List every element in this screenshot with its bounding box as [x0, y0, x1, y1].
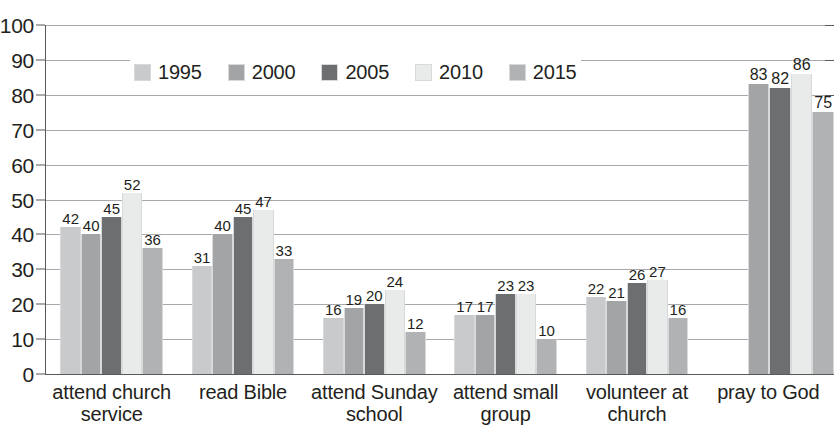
bar-group: 2221262716 — [571, 25, 702, 374]
bar-slot: 42 — [60, 25, 80, 374]
bar-chart: 1009080706050403020100 42404552363140454… — [0, 0, 834, 442]
bar[interactable]: 16 — [323, 318, 343, 374]
legend-item-2000[interactable]: 2000 — [228, 62, 296, 82]
bar[interactable]: 33 — [274, 259, 294, 374]
bar-value-label: 52 — [124, 177, 141, 192]
bar[interactable]: 75 — [812, 112, 834, 374]
bar-slot: 22 — [586, 25, 606, 374]
y-tick-mark — [36, 304, 45, 305]
y-tick-mark — [36, 199, 45, 200]
bar-value-label: 16 — [325, 302, 342, 317]
bar-value-label: 10 — [538, 323, 555, 338]
bar[interactable]: 20 — [364, 304, 384, 374]
y-tick-mark — [36, 234, 45, 235]
bar[interactable]: 10 — [536, 339, 556, 374]
bar-value-label: 42 — [62, 211, 79, 226]
bar[interactable]: 23 — [495, 294, 515, 374]
bar[interactable]: 45 — [101, 217, 121, 374]
bar-value-label: 20 — [366, 288, 383, 303]
bar[interactable]: 26 — [627, 283, 647, 374]
bar-value-label: 17 — [477, 299, 494, 314]
bar[interactable]: 45 — [233, 217, 253, 374]
bar[interactable]: 83 — [748, 84, 770, 374]
bar-value-label: 40 — [214, 218, 231, 233]
bar-slot: 26 — [627, 25, 647, 374]
bar-value-label: 22 — [588, 281, 605, 296]
bar[interactable]: 82 — [769, 88, 791, 374]
bar[interactable]: 12 — [405, 332, 425, 374]
bar-value-label: 12 — [407, 316, 424, 331]
bar-value-label: 47 — [255, 194, 272, 209]
bar[interactable]: 27 — [647, 280, 667, 374]
legend-item-2015[interactable]: 2015 — [509, 62, 577, 82]
bar-value-label: 33 — [276, 243, 293, 258]
legend-swatch-icon — [509, 64, 526, 81]
bar-value-label: 16 — [670, 302, 687, 317]
bar[interactable]: 36 — [142, 248, 162, 374]
y-tick-label: 10 — [11, 329, 34, 350]
x-axis-label: volunteer atchurch — [571, 381, 702, 426]
y-tick-label: 60 — [11, 154, 34, 175]
bar-slot: 82 — [769, 25, 791, 374]
x-axis-label: attend smallgroup — [440, 381, 571, 426]
bar[interactable]: 17 — [475, 315, 495, 374]
bar-value-label: 36 — [144, 232, 161, 247]
bar[interactable]: 40 — [81, 234, 101, 374]
bar[interactable]: 42 — [60, 227, 80, 374]
bar[interactable]: 47 — [253, 210, 273, 374]
x-axis-label-line1: attend small — [442, 381, 569, 403]
bar-value-label: 17 — [456, 299, 473, 314]
bar-slot — [726, 25, 748, 374]
y-tick-label: 70 — [11, 119, 34, 140]
legend-swatch-icon — [415, 64, 432, 81]
x-axis-label-line2: school — [311, 403, 438, 425]
x-axis-label-line1: pray to God — [705, 381, 832, 403]
y-tick-mark — [36, 339, 45, 340]
bar-value-label: 75 — [814, 95, 832, 111]
y-tick-label: 30 — [11, 259, 34, 280]
legend-item-2005[interactable]: 2005 — [321, 62, 389, 82]
x-axis-label-line1: volunteer at — [573, 381, 700, 403]
bar[interactable]: 31 — [192, 266, 212, 374]
x-axis-label-line1: attend church — [48, 381, 175, 403]
y-tick-mark — [36, 129, 45, 130]
bar-slot: 16 — [668, 25, 688, 374]
bar-value-label: 31 — [194, 250, 211, 265]
bar-value-label: 45 — [235, 201, 252, 216]
legend-swatch-icon — [228, 64, 245, 81]
bar-slot: 21 — [606, 25, 626, 374]
x-axis-label: read Bible — [177, 381, 308, 426]
x-axis-label: pray to God — [703, 381, 834, 426]
chart-legend: 19952000200520102015 — [130, 60, 581, 84]
x-axis-label: attend churchservice — [46, 381, 177, 426]
y-tick-mark — [36, 59, 45, 60]
bar-slot: 86 — [791, 25, 813, 374]
legend-label: 2010 — [439, 62, 483, 82]
bar[interactable]: 21 — [606, 301, 626, 374]
bar[interactable]: 16 — [668, 318, 688, 374]
bar[interactable]: 86 — [791, 74, 813, 374]
bar-value-label: 83 — [750, 67, 768, 83]
bar[interactable]: 23 — [516, 294, 536, 374]
bar-value-label: 19 — [345, 292, 362, 307]
legend-item-2010[interactable]: 2010 — [415, 62, 483, 82]
bar[interactable]: 19 — [344, 308, 364, 374]
y-tick-label: 80 — [11, 84, 34, 105]
bar[interactable]: 17 — [454, 315, 474, 374]
x-axis-category-labels: attend churchserviceread Bibleattend Sun… — [46, 381, 834, 426]
legend-item-1995[interactable]: 1995 — [134, 62, 202, 82]
y-tick-mark-right — [825, 374, 834, 375]
bar[interactable]: 52 — [122, 193, 142, 374]
legend-swatch-icon — [134, 64, 151, 81]
bar-slot: 75 — [812, 25, 834, 374]
x-axis-label: attend Sundayschool — [309, 381, 440, 426]
x-axis-line — [45, 374, 834, 375]
bar[interactable]: 40 — [212, 234, 232, 374]
bar-value-label: 82 — [771, 71, 789, 87]
y-axis: 1009080706050403020100 — [0, 0, 44, 442]
x-axis-label-line1: attend Sunday — [311, 381, 438, 403]
bar[interactable]: 24 — [385, 290, 405, 374]
bar[interactable]: 22 — [586, 297, 606, 374]
x-axis-label-line2: group — [442, 403, 569, 425]
y-tick-mark — [36, 374, 45, 375]
